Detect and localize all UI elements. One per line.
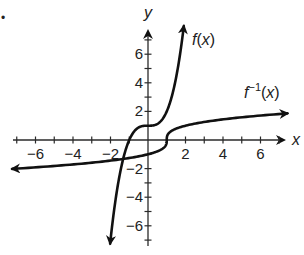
y-tick-label: −6: [126, 217, 143, 234]
f-inverse-label: f−1(x): [244, 81, 280, 101]
curve-f-inverse: [12, 113, 287, 168]
y-tick-label: −4: [126, 188, 143, 205]
f-label: f(x): [192, 31, 215, 48]
x-tick-label: −4: [64, 145, 81, 162]
y-axis-label: y: [143, 4, 153, 21]
x-tick-label: 2: [181, 145, 189, 162]
graph-of-f-and-inverse: • −6−4−2246 −6−4−2246 x y f(x) f−1(x): [0, 0, 304, 255]
y-tick-label: 6: [135, 45, 143, 62]
x-axis-label: x: [291, 131, 301, 148]
y-tick-label: 2: [135, 102, 143, 119]
x-tick-label: 4: [219, 145, 227, 162]
y-tick-label: −2: [126, 160, 143, 177]
y-tick-label: 4: [135, 74, 143, 91]
x-tick-label: −6: [27, 145, 44, 162]
bullet-marker: •: [1, 11, 5, 25]
x-tick-label: 6: [256, 145, 264, 162]
